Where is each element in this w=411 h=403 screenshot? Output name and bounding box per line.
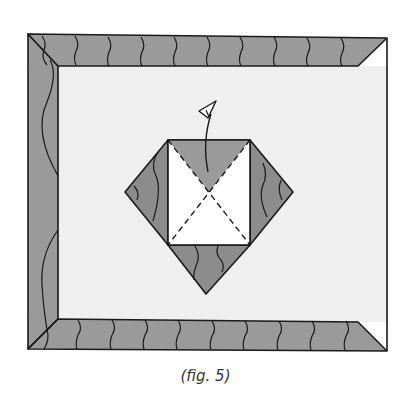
- origami-diagram: [0, 0, 411, 403]
- figure-caption: (fig. 5): [0, 367, 411, 385]
- bottom-border: [28, 319, 387, 351]
